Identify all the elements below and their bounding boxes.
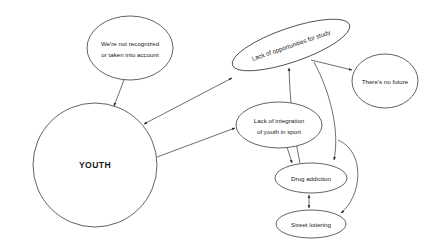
diagram-canvas: We're not recognized or taken into accou… — [0, 0, 440, 247]
node-drugs-label: Drug addiction — [291, 175, 331, 182]
node-recognition-label: We're not recognized — [101, 40, 160, 47]
node-drugs[interactable]: Drug addiction — [275, 163, 347, 193]
node-layer: We're not recognized or taken into accou… — [33, 9, 418, 238]
edge-sport-to-drugs — [287, 147, 292, 163]
node-youth[interactable]: YOUTH — [33, 103, 157, 227]
node-future-label: There's no future — [362, 78, 409, 85]
node-study[interactable]: Lack of opportunities for study — [227, 9, 355, 82]
node-recognition[interactable]: We're not recognized or taken into accou… — [87, 16, 173, 80]
edge-study-to-drugs — [314, 62, 336, 160]
edge-youth-to-sport — [157, 128, 235, 157]
causal-diagram: We're not recognized or taken into accou… — [0, 0, 440, 247]
node-sport-label: Lack of integration — [254, 117, 305, 124]
node-recognition-label-line2: or taken into account — [101, 51, 159, 58]
node-recognition-shape — [87, 16, 173, 80]
node-loitering[interactable]: Street loitering — [276, 210, 346, 238]
node-sport-shape — [236, 102, 322, 148]
node-sport[interactable]: Lack of integration of youth in sport — [236, 102, 322, 148]
node-youth-label: YOUTH — [79, 160, 111, 170]
edge-youth-to-study — [144, 78, 232, 124]
edge-recognition-to-youth — [114, 80, 124, 106]
node-future[interactable]: There's no future — [352, 54, 418, 108]
node-sport-label-line2: of youth in sport — [257, 128, 301, 135]
node-loitering-label: Street loitering — [291, 221, 331, 228]
